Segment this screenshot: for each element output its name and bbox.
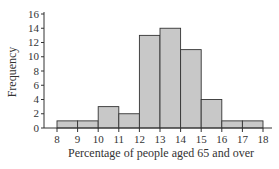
y-tick-label: 8 [34, 65, 40, 77]
histogram-bar [181, 50, 202, 128]
histogram-bar [98, 107, 119, 128]
y-tick-label: 10 [28, 50, 40, 62]
y-axis-title: Frequency [5, 47, 19, 98]
x-tick-label: 14 [175, 133, 187, 145]
x-tick-label: 15 [196, 133, 208, 145]
x-tick-label: 17 [237, 133, 249, 145]
x-axis: 89101112131415161718 [44, 128, 272, 145]
histogram-bar [222, 121, 243, 128]
x-tick-label: 10 [93, 133, 105, 145]
histogram-bar [201, 100, 222, 129]
histogram-bar [119, 114, 140, 128]
y-tick-label: 0 [34, 122, 40, 134]
y-tick-label: 16 [28, 8, 40, 20]
y-tick-label: 4 [34, 93, 40, 105]
y-tick-label: 14 [28, 22, 40, 34]
histogram-bar [57, 121, 78, 128]
x-tick-label: 8 [54, 133, 60, 145]
y-tick-label: 2 [34, 107, 40, 119]
x-tick-label: 16 [216, 133, 228, 145]
y-axis: 0246810121416 [28, 8, 44, 134]
x-tick-label: 13 [155, 133, 167, 145]
x-tick-label: 11 [114, 133, 125, 145]
x-tick-label: 12 [134, 133, 145, 145]
y-tick-label: 6 [34, 79, 40, 91]
histogram-bar [139, 35, 160, 128]
histogram-bars [57, 28, 263, 128]
histogram-bar [78, 121, 99, 128]
histogram-bar [160, 28, 181, 128]
histogram-chart: 0246810121416 89101112131415161718 Frequ… [0, 0, 279, 169]
x-tick-label: 9 [75, 133, 81, 145]
histogram-bar [242, 121, 263, 128]
y-tick-label: 12 [28, 36, 39, 48]
x-tick-label: 18 [258, 133, 270, 145]
x-axis-title: Percentage of people aged 65 and over [68, 146, 254, 160]
